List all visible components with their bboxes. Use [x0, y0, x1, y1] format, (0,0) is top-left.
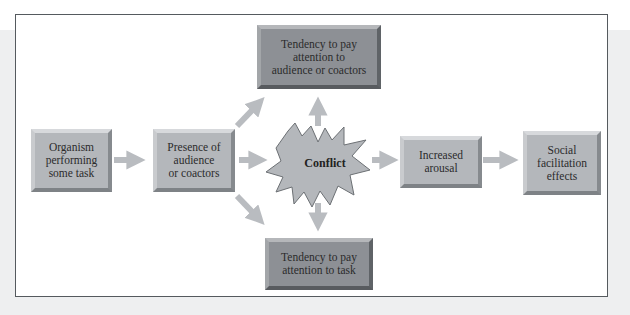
conflict-label: Conflict: [290, 156, 360, 171]
node-presence-line: audience: [167, 154, 220, 167]
node-organism-line: some task: [46, 167, 98, 180]
node-attend-audience-line: Tendency to pay: [272, 38, 367, 51]
node-presence: Presence of audience or coactors: [153, 129, 235, 192]
node-organism-line: Organism: [46, 141, 98, 154]
node-attend-task: Tendency to pay attention to task: [265, 238, 373, 290]
node-attend-audience-line: audience or coactors: [272, 64, 367, 77]
arrow-presence-to-attend-audience: [237, 104, 258, 126]
node-presence-line: Presence of: [167, 141, 220, 154]
node-arousal: Increased arousal: [400, 136, 482, 188]
node-social-line: effects: [537, 170, 587, 183]
node-arousal-line: arousal: [419, 162, 463, 175]
node-social-line: Social: [537, 144, 587, 157]
node-social-line: facilitation: [537, 157, 587, 170]
node-presence-line: or coactors: [167, 167, 220, 180]
node-attend-task-line: Tendency to pay: [281, 251, 357, 264]
node-attend-audience-line: attention to: [272, 51, 367, 64]
node-social-facilitation: Social facilitation effects: [523, 131, 601, 195]
node-organism: Organism performing some task: [31, 129, 112, 192]
arrow-presence-to-attend-task: [237, 196, 258, 218]
node-attend-audience: Tendency to pay attention to audience or…: [257, 25, 381, 89]
node-organism-line: performing: [46, 154, 98, 167]
node-arousal-line: Increased: [419, 149, 463, 162]
node-attend-task-line: attention to task: [281, 264, 357, 277]
